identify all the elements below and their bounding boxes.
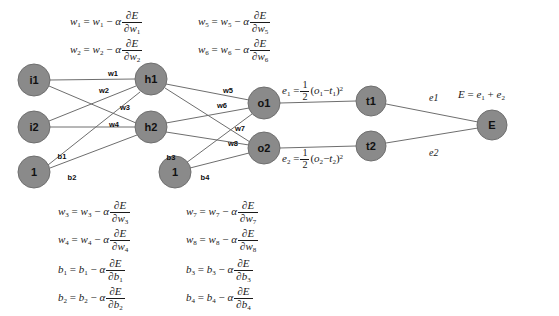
eq-w5-rhs-sub: 5: [228, 21, 232, 29]
eq-b4-E: E: [243, 285, 250, 297]
eq-b4-equals: =: [198, 291, 204, 303]
edge-h2-o1: [166, 108, 249, 123]
eq-b4-rhs-sub: 4: [212, 297, 216, 305]
node-t2-label: t2: [366, 140, 376, 152]
eq-w5-minus: −: [234, 15, 240, 27]
edge-label-e1: e1: [429, 92, 438, 103]
eq-w5-rhs: w: [221, 15, 228, 27]
edge-label-w2: w2: [98, 86, 109, 95]
eq-w7-alpha: α: [231, 205, 237, 217]
node-total-error-label: E: [488, 119, 495, 131]
eq-w1-fraction: ∂E∂w1: [122, 10, 142, 35]
node-h1-label: h1: [145, 73, 158, 85]
eq-e1-half-den: 2: [300, 92, 309, 103]
eq-e2-half-den: 2: [300, 160, 309, 171]
eq-w1-denominator: ∂w1: [122, 23, 142, 35]
eq-e2-half: 12: [300, 148, 309, 171]
eq-w3-rhs-sub: 3: [88, 211, 92, 219]
node-t1-label: t1: [366, 95, 376, 107]
eq-w8-denom-var: w: [245, 240, 252, 252]
eq-w8-alpha: α: [231, 233, 237, 245]
eq-total-equals: =: [467, 88, 473, 100]
eq-w4-equals: =: [72, 233, 78, 245]
eq-w8-equals: =: [200, 233, 206, 245]
eq-w4-fraction: ∂E∂w4: [110, 228, 130, 253]
edge-bias2-o2: [190, 153, 249, 168]
eq-w8-rhs: w: [209, 233, 216, 245]
eq-w2-denominator: ∂w2: [122, 51, 142, 63]
eq-w2-rhs-sub: 2: [100, 49, 104, 57]
eq-w6-alpha: α: [243, 43, 249, 55]
eq-w7-fraction: ∂E∂w7: [238, 200, 258, 225]
eq-w2-rhs: w: [93, 43, 100, 55]
node-i2-label: i2: [29, 121, 38, 133]
eq-w2-E: E: [131, 37, 138, 49]
edge-label-w1: w1: [107, 69, 118, 78]
eq-w1-rhs-sub: 1: [100, 21, 104, 29]
eq-w2-equals: =: [84, 43, 90, 55]
eq-w3-fraction: ∂E∂w3: [110, 200, 130, 225]
eq-b3-E: E: [243, 257, 250, 269]
eq-total-term1-sub: 1: [481, 94, 485, 102]
eq-w4-denom-var: w: [117, 240, 124, 252]
eq-b1-minus: −: [91, 263, 97, 275]
eq-b2-denom-sub: 2: [119, 304, 123, 312]
equation-w1: w1 = w1 − α∂E∂w1: [70, 10, 143, 35]
eq-e1-power: 2: [340, 85, 344, 93]
eq-w5-denom-var: w: [257, 22, 264, 34]
edge-label-e2: e2: [429, 147, 438, 158]
eq-w3-alpha: α: [103, 205, 109, 217]
eq-w1-denom-sub: 1: [137, 28, 141, 36]
edge-h1-o1: [166, 84, 249, 100]
eq-w7-denominator: ∂w7: [238, 213, 258, 225]
equation-b2: b2 = b2 − α∂E∂b2: [58, 286, 126, 311]
eq-b3-fraction: ∂E∂b3: [234, 258, 252, 283]
eq-w6-denom-sub: 6: [265, 56, 269, 64]
equation-total-error: E = e1 + e2: [458, 88, 505, 100]
eq-w3-E: E: [119, 199, 126, 211]
eq-b4-denom-sub: 4: [247, 304, 251, 312]
equation-w4: w4 = w4 − α∂E∂w4: [58, 228, 131, 253]
eq-w4-lhs-sub: 4: [65, 239, 69, 247]
edge-bias2-o1: [186, 114, 252, 163]
eq-b2-fraction: ∂E∂b2: [106, 286, 124, 311]
eq-w4-alpha: α: [103, 233, 109, 245]
eq-w2-fraction: ∂E∂w2: [122, 38, 142, 63]
eq-w5-denom-sub: 5: [265, 28, 269, 36]
eq-w4-rhs-sub: 4: [88, 239, 92, 247]
equation-w2: w2 = w2 − α∂E∂w2: [70, 38, 143, 63]
eq-w6-fraction: ∂E∂w6: [250, 38, 270, 63]
eq-w4-minus: −: [94, 233, 100, 245]
nodes-layer: i1 i2 1 h1 h2 1 o1 o2 t1 t2 E: [18, 63, 507, 188]
edge-label-b1: b1: [58, 152, 67, 161]
eq-w1-equals: =: [84, 15, 90, 27]
eq-e1-half: 12: [300, 80, 309, 103]
e2-symbol: e2: [429, 147, 438, 158]
eq-w8-minus: −: [222, 233, 228, 245]
equation-w5: w5 = w5 − α∂E∂w5: [198, 10, 271, 35]
eq-w8-E: E: [247, 227, 254, 239]
eq-w5-alpha: α: [243, 15, 249, 27]
eq-total-lhs: E: [458, 88, 465, 100]
eq-total-term2-sub: 2: [501, 94, 505, 102]
eq-w2-minus: −: [106, 43, 112, 55]
eq-w1-alpha: α: [115, 15, 121, 27]
eq-w7-lhs-sub: 7: [193, 211, 197, 219]
node-i1-label: i1: [29, 74, 38, 86]
node-h2-label: h2: [145, 121, 158, 133]
equation-w3: w3 = w3 − α∂E∂w3: [58, 200, 131, 225]
eq-b2-denominator: ∂b2: [106, 299, 124, 311]
eq-w1-E: E: [131, 9, 138, 21]
edge-label-w3: w3: [119, 103, 130, 112]
edge-label-w5: w5: [222, 86, 233, 95]
equation-w7: w7 = w7 − α∂E∂w7: [186, 200, 259, 225]
eq-w5-equals: =: [212, 15, 218, 27]
edge-label-b3: b3: [167, 153, 176, 162]
eq-w5-E: E: [259, 9, 266, 21]
eq-b3-alpha: α: [227, 263, 233, 275]
equation-b1: b1 = b1 − α∂E∂b1: [58, 258, 126, 283]
eq-w7-denom-var: w: [245, 212, 252, 224]
eq-w7-minus: −: [222, 205, 228, 217]
eq-b2-alpha: α: [99, 291, 105, 303]
edge-label-b4: b4: [201, 173, 211, 182]
